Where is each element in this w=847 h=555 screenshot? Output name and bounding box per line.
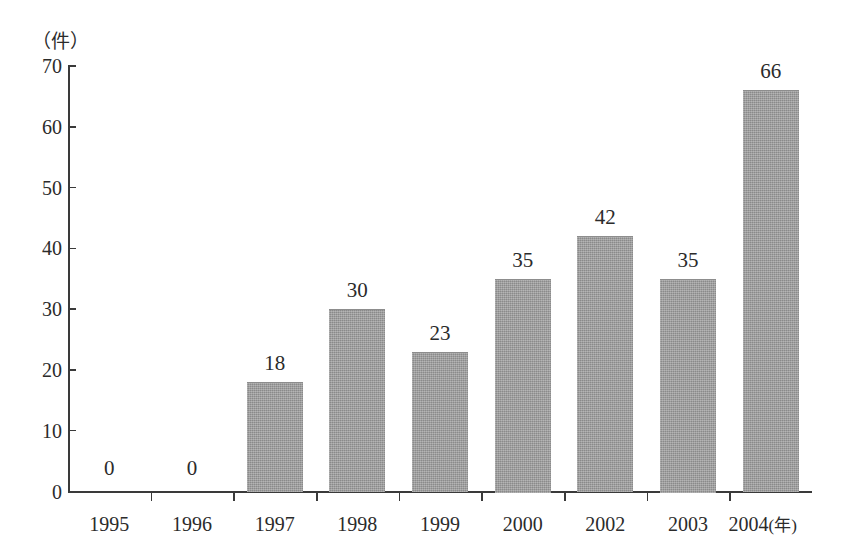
bar-value-label: 23 (400, 322, 480, 344)
y-tick-label-wrap: 40 (0, 238, 62, 258)
x-category-text: 2004 (728, 513, 768, 535)
bar-value-label: 18 (235, 352, 315, 374)
y-tick-mark (68, 308, 76, 310)
y-axis-unit-label: （件） (32, 26, 89, 53)
bar (495, 279, 551, 493)
bar (577, 236, 633, 492)
x-tick-mark (647, 492, 649, 501)
bar-chart: （件） 010203040506070 0018302335423566 199… (0, 0, 847, 555)
bar-value-label: 42 (565, 206, 645, 228)
x-tick-mark (151, 492, 153, 501)
y-tick-label: 10 (14, 421, 62, 441)
x-category-text: 2000 (503, 513, 543, 535)
bar-value-label: 0 (69, 457, 149, 479)
bar-value-label: 66 (731, 60, 811, 82)
y-tick-label-wrap: 60 (0, 117, 62, 137)
x-category-text: 1996 (172, 513, 212, 535)
y-tick-mark (68, 126, 76, 128)
y-tick-mark (68, 430, 76, 432)
y-tick-label: 0 (14, 482, 62, 502)
y-tick-mark (68, 187, 76, 189)
y-tick-mark (68, 491, 76, 493)
y-tick-label-wrap: 0 (0, 482, 62, 502)
y-tick-label: 40 (14, 238, 62, 258)
y-tick-label: 20 (14, 360, 62, 380)
x-category-text: 1998 (337, 513, 377, 535)
x-tick-mark (481, 492, 483, 501)
bar (660, 279, 716, 493)
x-category-text: 2002 (585, 513, 625, 535)
x-category-text: 1995 (89, 513, 129, 535)
x-axis-unit-label: (年) (768, 516, 796, 535)
x-tick-mark (233, 492, 235, 501)
y-axis-line (68, 66, 70, 493)
x-tick-mark (316, 492, 318, 501)
bar (412, 352, 468, 493)
y-tick-mark (68, 65, 76, 67)
x-category-text: 1999 (420, 513, 460, 535)
x-tick-mark (399, 492, 401, 501)
y-tick-label: 70 (14, 56, 62, 76)
y-tick-label-wrap: 70 (0, 56, 62, 76)
bar (743, 90, 799, 492)
y-tick-mark (68, 369, 76, 371)
y-tick-label: 50 (14, 178, 62, 198)
bar-value-label: 35 (483, 249, 563, 271)
bar (247, 382, 303, 492)
bar-value-label: 30 (317, 279, 397, 301)
y-tick-mark (68, 248, 76, 250)
y-tick-label-wrap: 20 (0, 360, 62, 380)
y-tick-label-wrap: 10 (0, 421, 62, 441)
x-category-text: 1997 (255, 513, 295, 535)
y-tick-label: 30 (14, 299, 62, 319)
y-tick-label-wrap: 30 (0, 299, 62, 319)
x-tick-mark (729, 492, 731, 501)
y-tick-label-wrap: 50 (0, 178, 62, 198)
bar (329, 309, 385, 492)
y-tick-label: 60 (14, 117, 62, 137)
x-tick-label: 2004(年) (703, 512, 823, 538)
bar-value-label: 0 (152, 457, 232, 479)
x-tick-mark (564, 492, 566, 501)
bar-value-label: 35 (648, 249, 728, 271)
